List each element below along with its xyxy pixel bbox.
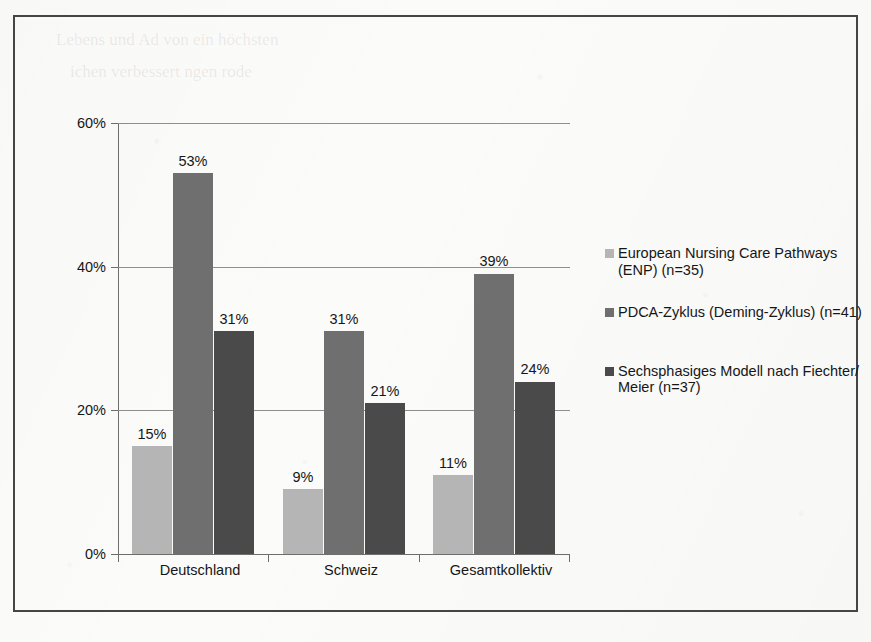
y-tick-label-0: 0% <box>85 547 106 562</box>
bar-deutschland-fiechter-meier[interactable]: 31% <box>214 331 254 554</box>
bar-group-schweiz: 9% 31% 21% <box>283 123 419 554</box>
legend-swatch-icon <box>605 367 614 376</box>
bar-value-label: 31% <box>219 312 248 327</box>
bar-schweiz-fiechter-meier[interactable]: 21% <box>365 403 405 554</box>
bar-gesamtkollektiv-enp[interactable]: 11% <box>433 475 473 554</box>
x-category-label-schweiz: Schweiz <box>283 563 419 578</box>
plot-area: 60% 40% 20% 0% 15% 53% 31% Deutschland <box>118 123 570 554</box>
legend-swatch-icon <box>605 249 614 258</box>
y-axis-line <box>118 123 119 554</box>
bar-value-label: 21% <box>370 384 399 399</box>
legend-item-label: European Nursing Care Pathways (ENP) (n=… <box>618 245 837 278</box>
bar-gesamtkollektiv-fiechter-meier[interactable]: 24% <box>515 382 555 554</box>
y-tick-mark-20 <box>111 410 118 411</box>
bar-schweiz-pdca[interactable]: 31% <box>324 331 364 554</box>
bar-value-label: 11% <box>439 456 467 471</box>
legend-swatch-icon <box>605 308 614 317</box>
bar-group-deutschland: 15% 53% 31% <box>132 123 268 554</box>
bar-schweiz-enp[interactable]: 9% <box>283 489 323 554</box>
legend-item-label: PDCA-Zyklus (Deming-Zyklus) (n=41) <box>618 304 862 321</box>
bar-gesamtkollektiv-pdca[interactable]: 39% <box>474 274 514 554</box>
legend-item-label: Sechsphasiges Modell nach Fiechter/ Meie… <box>618 363 859 396</box>
x-tick-mark-0 <box>118 554 119 562</box>
bar-value-label: 9% <box>293 470 314 485</box>
x-category-label-gesamtkollektiv: Gesamtkollektiv <box>433 563 569 578</box>
y-tick-mark-0 <box>111 554 118 555</box>
bar-group-gesamtkollektiv: 11% 39% 24% <box>433 123 569 554</box>
y-tick-label-60: 60% <box>77 116 106 131</box>
x-axis-line <box>118 554 570 555</box>
y-tick-mark-60 <box>111 123 118 124</box>
bar-value-label: 53% <box>178 154 207 169</box>
x-tick-mark-3 <box>569 554 570 562</box>
legend-item-pdca[interactable]: PDCA-Zyklus (Deming-Zyklus) (n=41) <box>605 304 867 321</box>
y-tick-mark-40 <box>111 267 118 268</box>
bar-deutschland-enp[interactable]: 15% <box>132 446 172 554</box>
chart-legend: European Nursing Care Pathways (ENP) (n=… <box>605 245 867 396</box>
x-tick-mark-1 <box>268 554 269 562</box>
x-tick-mark-2 <box>419 554 420 562</box>
bar-deutschland-pdca[interactable]: 53% <box>173 173 213 554</box>
y-tick-label-40: 40% <box>77 259 106 274</box>
x-category-label-deutschland: Deutschland <box>132 563 268 578</box>
bar-value-label: 39% <box>479 254 508 269</box>
bar-value-label: 31% <box>329 312 358 327</box>
legend-item-enp[interactable]: European Nursing Care Pathways (ENP) (n=… <box>605 245 867 278</box>
bar-value-label: 15% <box>137 427 166 442</box>
y-tick-label-20: 20% <box>77 403 106 418</box>
bar-value-label: 24% <box>520 362 549 377</box>
chart-frame: 60% 40% 20% 0% 15% 53% 31% Deutschland <box>13 15 858 612</box>
legend-item-fiechter-meier[interactable]: Sechsphasiges Modell nach Fiechter/ Meie… <box>605 363 867 396</box>
